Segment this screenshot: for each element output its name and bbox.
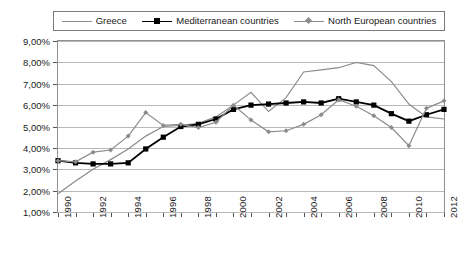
x-axis-tick [198,213,199,217]
x-axis-tick-label: 2000 [237,196,248,218]
x-axis-tick [356,213,357,217]
x-axis-tick-label: 2010 [413,196,424,218]
x-axis-tick [146,213,147,217]
x-axis-tick [409,213,410,217]
x-axis-tick-label: 2004 [308,196,319,218]
x-axis-tick [426,213,427,217]
x-axis-tick [76,213,77,217]
x-axis-tick [304,213,305,217]
x-axis-tick-label: 1998 [202,196,213,218]
x-axis-tick-label: 2002 [273,196,284,218]
x-axis-tick [111,213,112,217]
x-axis-tick [269,213,270,217]
x-axis-tick-label: 2008 [378,196,389,218]
x-axis-tick [321,213,322,217]
x-axis-tick [374,213,375,217]
x-axis-tick [93,213,94,217]
x-axis-tick [339,213,340,217]
x-axis-tick-label: 1996 [167,196,178,218]
x-axis-tick [286,213,287,217]
x-axis-tick [391,213,392,217]
x-axis-tick [181,213,182,217]
x-axis-tick-label: 1990 [62,196,73,218]
x-axis-tick [216,213,217,217]
x-axis-tick [128,213,129,217]
x-axis-tick-label: 1994 [132,196,143,218]
chart-figure: Greece Mediterranean countries North Eur… [0,0,463,277]
x-axis-tick [233,213,234,217]
x-axis-tick [58,213,59,217]
x-axis-tick-label: 2006 [343,196,354,218]
x-axis-tick [444,213,445,217]
x-axis-tick-label: 2012 [448,196,459,218]
x-axis-tick [251,213,252,217]
x-axis-tick-label: 1992 [97,196,108,218]
x-axis-tick [163,213,164,217]
x-axis: 1990199219941996199820002002200420062008… [0,0,463,277]
